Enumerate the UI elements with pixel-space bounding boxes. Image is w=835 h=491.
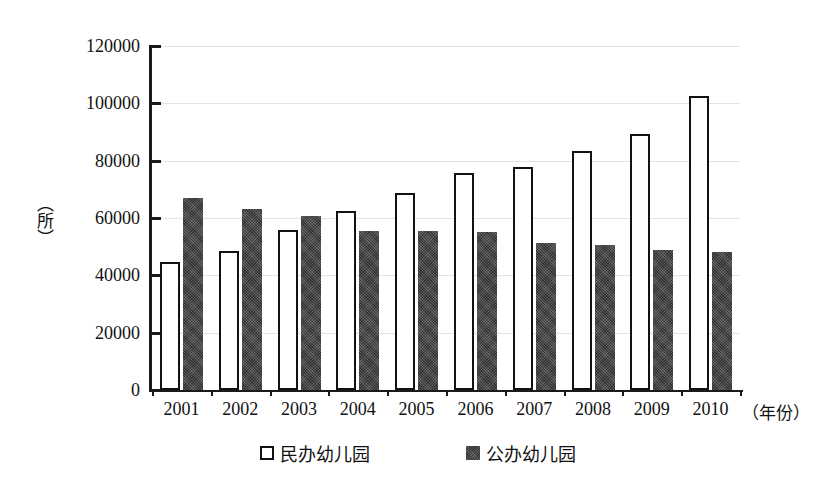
bar-2003-gongban[interactable]	[301, 216, 321, 390]
bar-2002-minban[interactable]	[219, 251, 239, 390]
bar-2004-gongban[interactable]	[359, 231, 379, 390]
bar-2001-gongban[interactable]	[183, 198, 203, 390]
bar-2003-minban[interactable]	[278, 230, 298, 390]
bar-2007-minban[interactable]	[513, 167, 533, 390]
y-axis-tick-label: 100000	[30, 94, 140, 112]
bar-group	[630, 46, 673, 390]
bar-group	[395, 46, 438, 390]
x-axis-tick-mark	[152, 391, 154, 396]
x-axis-tick-label: 2010	[693, 399, 729, 420]
x-axis-tick-mark	[740, 391, 742, 396]
x-axis-title: （年份）	[742, 399, 810, 424]
x-axis-tick-mark	[270, 391, 272, 396]
x-axis-tick-label: 2005	[399, 399, 435, 420]
plot-area	[152, 46, 740, 390]
bar-2006-gongban[interactable]	[477, 232, 497, 390]
x-axis-tick-label: 2004	[340, 399, 376, 420]
bar-2006-minban[interactable]	[454, 173, 474, 390]
bar-2008-gongban[interactable]	[595, 245, 615, 390]
bar-2010-gongban[interactable]	[712, 252, 732, 390]
y-axis-tick-label: 120000	[30, 37, 140, 55]
legend-label: 民办幼儿园	[280, 440, 370, 466]
x-axis-tick-mark	[387, 391, 389, 396]
x-axis-tick-label: 2002	[222, 399, 258, 420]
bar-group	[278, 46, 321, 390]
bar-group	[160, 46, 203, 390]
y-axis-tick-labels: 020000400006000080000100000120000	[25, 0, 140, 491]
bar-chart: （所） 020000400006000080000100000120000 （年…	[0, 0, 835, 491]
y-axis-tick-label: 0	[30, 381, 140, 399]
bar-2009-minban[interactable]	[630, 134, 650, 390]
x-axis-tick-mark	[328, 391, 330, 396]
bar-group	[219, 46, 262, 390]
x-axis-tick-mark	[446, 391, 448, 396]
x-axis-tick-mark	[564, 391, 566, 396]
x-axis-tick-label: 2006	[457, 399, 493, 420]
bar-2010-minban[interactable]	[689, 96, 709, 390]
y-axis-tick-label: 20000	[30, 324, 140, 342]
x-axis-tick-mark	[622, 391, 624, 396]
x-axis-tick-mark	[211, 391, 213, 396]
legend-item-minban[interactable]: 民办幼儿园	[260, 440, 370, 466]
bar-group	[513, 46, 556, 390]
legend-label: 公办幼儿园	[486, 440, 576, 466]
bar-2008-minban[interactable]	[572, 151, 592, 390]
x-axis-tick-mark	[681, 391, 683, 396]
bar-group	[689, 46, 732, 390]
x-axis-tick-label: 2001	[163, 399, 199, 420]
bar-2007-gongban[interactable]	[536, 243, 556, 390]
legend-swatch-icon	[466, 446, 480, 460]
x-axis-tick-label: 2009	[634, 399, 670, 420]
bar-2005-gongban[interactable]	[418, 231, 438, 390]
bar-2004-minban[interactable]	[336, 211, 356, 390]
bar-group	[572, 46, 615, 390]
legend-swatch-icon	[260, 446, 274, 460]
y-axis-tick-label: 60000	[30, 209, 140, 227]
bar-2002-gongban[interactable]	[242, 209, 262, 390]
x-axis-tick-label: 2003	[281, 399, 317, 420]
y-axis-tick-label: 80000	[30, 152, 140, 170]
bar-group	[454, 46, 497, 390]
x-axis-tick-label: 2008	[575, 399, 611, 420]
legend-item-gongban[interactable]: 公办幼儿园	[466, 440, 576, 466]
chart-legend: 民办幼儿园公办幼儿园	[0, 440, 835, 466]
bar-2005-minban[interactable]	[395, 193, 415, 391]
bar-2009-gongban[interactable]	[653, 250, 673, 390]
bar-group	[336, 46, 379, 390]
x-axis-tick-label: 2007	[516, 399, 552, 420]
bar-2001-minban[interactable]	[160, 262, 180, 390]
y-axis-tick-label: 40000	[30, 266, 140, 284]
x-axis-tick-mark	[505, 391, 507, 396]
